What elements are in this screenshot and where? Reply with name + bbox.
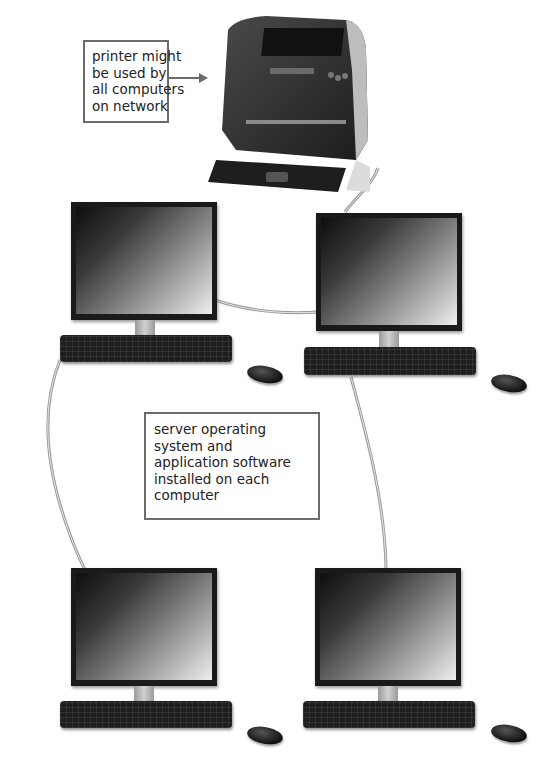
monitor-icon [316,213,462,331]
printer-callout-line: be used by [92,65,160,82]
monitor-stand [135,320,155,336]
software-callout-line: system and [154,438,310,455]
printer-callout-line: on network [92,98,160,115]
software-callout-line: installed on each [154,471,310,488]
monitor-stand [379,331,399,347]
keyboard-icon [60,701,232,728]
monitor-icon [71,568,217,686]
software-callout-line: computer [154,487,310,504]
keyboard-icon [60,335,232,362]
printer-callout: printer might be used by all computers o… [83,40,169,123]
keyboard-icon [304,347,476,375]
software-callout-line: application software [154,454,310,471]
software-callout: server operating system and application … [144,412,320,520]
keyboard-icon [303,701,475,728]
printer-icon [206,10,370,192]
cable-top-right-to-bottom-right [351,377,386,569]
printer-callout-line: printer might [92,48,160,65]
monitor-stand [134,686,154,702]
monitor-stand [378,686,398,702]
monitor-icon [315,568,461,686]
monitor-icon [71,202,217,320]
cable-top-left-to-bottom-left [48,360,104,582]
printer-callout-line: all computers [92,81,160,98]
software-callout-line: server operating [154,421,310,438]
